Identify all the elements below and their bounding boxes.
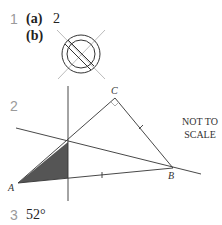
triangle-figure bbox=[16, 86, 201, 201]
question-3-number: 3 bbox=[10, 208, 18, 222]
figures-canvas bbox=[0, 0, 222, 225]
question-3-answer: 52° bbox=[26, 208, 46, 222]
question-2-number: 2 bbox=[10, 99, 18, 113]
side-CB bbox=[115, 98, 173, 168]
vertex-label-C: C bbox=[111, 86, 118, 96]
note-line-2: SCALE bbox=[184, 129, 216, 140]
vertex-label-A: A bbox=[8, 183, 14, 193]
note-line-1: NOT TO bbox=[182, 116, 218, 127]
symmetry-figure bbox=[57, 30, 105, 79]
vertex-label-B: B bbox=[168, 171, 174, 181]
right-angle-marker bbox=[111, 102, 119, 106]
band-line-2 bbox=[65, 44, 91, 70]
not-to-scale-note: NOT TO SCALE bbox=[180, 116, 220, 141]
